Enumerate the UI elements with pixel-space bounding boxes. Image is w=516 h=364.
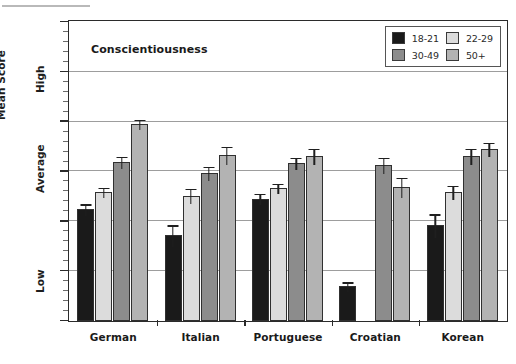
bar[interactable] — [375, 165, 392, 321]
error-bar — [296, 158, 297, 170]
y-axis-minor-tick — [63, 250, 68, 251]
bar-slot — [463, 156, 480, 321]
error-bar-cap — [466, 149, 477, 150]
y-axis-minor-tick — [63, 81, 68, 82]
bar[interactable] — [393, 187, 410, 321]
bar-group — [69, 22, 156, 321]
y-axis-tick — [60, 71, 68, 73]
scan-artifact — [2, 5, 90, 7]
bar-group — [418, 22, 505, 321]
y-axis-minor-tick — [63, 310, 68, 311]
error-bar-cap — [291, 158, 302, 159]
error-bar — [278, 184, 279, 194]
chart-figure: Mean Score Conscientiousness 18-2122-293… — [0, 0, 516, 364]
bar-slot — [165, 235, 182, 321]
bar-slot — [375, 165, 392, 321]
error-bar — [208, 167, 209, 181]
bar-slot — [252, 199, 269, 322]
bar[interactable] — [427, 225, 444, 321]
error-bar-cap — [204, 167, 215, 168]
y-axis-minor-tick — [63, 161, 68, 162]
error-bar-cap — [309, 149, 320, 150]
bar[interactable] — [463, 156, 480, 321]
bar-slot — [270, 188, 287, 321]
error-bar — [190, 189, 191, 205]
y-axis-minor-tick — [63, 280, 68, 281]
error-bar-cap — [342, 282, 353, 283]
error-bar — [172, 225, 173, 247]
y-axis-tick — [60, 320, 68, 322]
y-axis-annotation: High — [34, 66, 46, 93]
bar-slot — [131, 124, 148, 321]
y-axis-minor-tick — [63, 190, 68, 191]
error-bar — [347, 282, 348, 292]
error-bar — [488, 143, 489, 157]
error-bar-cap — [255, 194, 266, 195]
error-bar — [85, 204, 86, 216]
x-axis-category-label: German — [70, 331, 157, 343]
bar-slot — [219, 155, 236, 321]
bar[interactable] — [201, 173, 218, 321]
y-axis-minor-tick — [63, 260, 68, 261]
bar[interactable] — [77, 209, 94, 321]
error-bar-cap — [378, 158, 389, 159]
x-axis-tick — [157, 320, 158, 326]
x-axis-category-label: Italian — [157, 331, 244, 343]
y-axis-minor-tick — [63, 240, 68, 241]
y-axis-minor-tick — [63, 31, 68, 32]
bar-slot — [427, 225, 444, 321]
y-axis-minor-tick — [63, 290, 68, 291]
error-bar-cap — [134, 120, 145, 121]
bar[interactable] — [183, 196, 200, 321]
y-axis-tick — [60, 220, 68, 222]
bar[interactable] — [288, 163, 305, 321]
bar[interactable] — [131, 124, 148, 321]
bar-group — [331, 22, 418, 321]
bar[interactable] — [445, 192, 462, 321]
y-axis-minor-tick — [63, 180, 68, 181]
y-axis-minor-tick — [63, 61, 68, 62]
error-bar-cap — [448, 186, 459, 187]
y-axis-minor-tick — [63, 41, 68, 42]
bar[interactable] — [113, 162, 130, 321]
y-axis-minor-tick — [63, 300, 68, 301]
error-bar-cap — [168, 225, 179, 226]
error-bar — [401, 178, 402, 198]
bar[interactable] — [481, 149, 498, 321]
plot-area: Conscientiousness 18-2122-2930-4950+ — [68, 20, 508, 322]
error-bar — [452, 186, 453, 200]
y-axis-minor-tick — [63, 51, 68, 52]
error-bar — [103, 188, 104, 198]
error-bar-cap — [273, 184, 284, 185]
error-bar — [139, 120, 140, 130]
bar[interactable] — [252, 199, 269, 322]
error-bar — [314, 149, 315, 165]
y-axis-tick — [60, 170, 68, 172]
error-bar-cap — [222, 147, 233, 148]
bar[interactable] — [219, 155, 236, 321]
error-bar-cap — [484, 143, 495, 144]
x-axis-category-label: Croatian — [332, 331, 419, 343]
error-bar — [226, 147, 227, 165]
bar-slot — [201, 173, 218, 321]
y-axis-annotation: Average — [34, 144, 46, 193]
y-axis-minor-tick — [63, 230, 68, 231]
y-axis-title: Mean Score — [0, 50, 7, 120]
bar-slot — [445, 192, 462, 321]
bar-slot — [113, 162, 130, 321]
bar[interactable] — [270, 188, 287, 321]
bar[interactable] — [306, 156, 323, 321]
x-axis-category-label: Korean — [419, 331, 506, 343]
y-axis-minor-tick — [63, 111, 68, 112]
y-axis-minor-tick — [63, 131, 68, 132]
y-axis-minor-tick — [63, 210, 68, 211]
y-axis-tick — [60, 21, 68, 23]
error-bar — [434, 214, 435, 238]
bar[interactable] — [339, 286, 356, 321]
bar[interactable] — [95, 192, 112, 321]
error-bar — [470, 149, 471, 165]
bar[interactable] — [165, 235, 182, 321]
bar-slot — [95, 192, 112, 321]
y-axis-tick — [60, 270, 68, 272]
error-bar-cap — [186, 189, 197, 190]
